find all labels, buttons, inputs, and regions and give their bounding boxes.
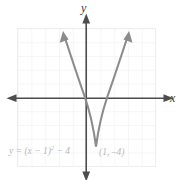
vertex-annotation: (1, –4) bbox=[99, 148, 124, 158]
parabola-graph-figure: y x y = (x − 1)2 − 4 (1, –4) bbox=[0, 0, 182, 180]
equation-prefix: y = (x − 1) bbox=[9, 146, 51, 156]
equation-annotation: y = (x − 1)2 − 4 bbox=[9, 147, 70, 157]
x-axis-label: x bbox=[170, 92, 175, 104]
equation-suffix: − 4 bbox=[54, 146, 70, 156]
y-axis-label: y bbox=[81, 2, 86, 14]
